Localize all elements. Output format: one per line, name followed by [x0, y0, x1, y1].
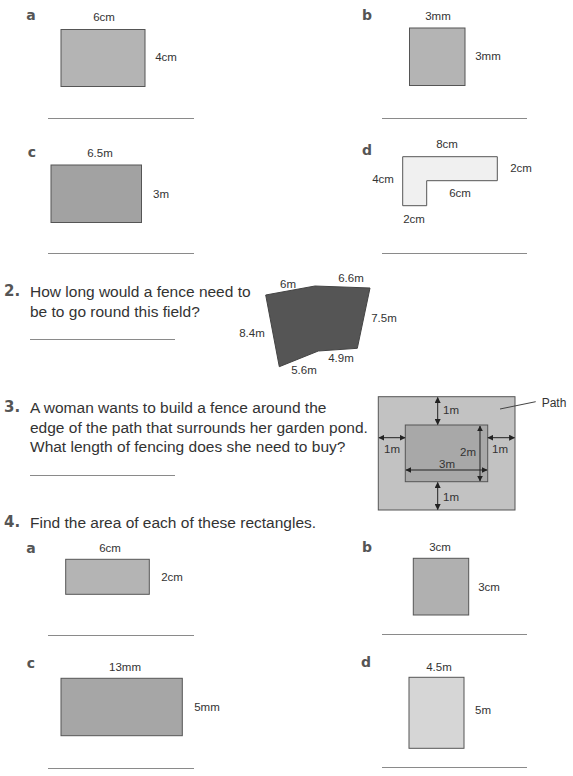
q1a-width-label: 6cm — [93, 11, 115, 23]
q1d-top-label: 8cm — [436, 138, 458, 150]
q1c-width-label: 6.5m — [87, 147, 113, 159]
q3-right-width-label: 1m — [492, 443, 508, 455]
q2-answer-line[interactable] — [30, 339, 175, 340]
q4b-height-label: 3cm — [478, 581, 500, 593]
q2-side-5-6m: 5.6m — [291, 364, 317, 376]
q4c-part-label: c — [27, 655, 35, 671]
q2-number: 2. — [4, 282, 20, 300]
q4b-width-label: 3cm — [429, 541, 451, 553]
q1d-inner-label: 6cm — [449, 187, 471, 199]
q4a-answer-line[interactable] — [48, 635, 194, 636]
q3-text-line-3: What length of fencing does she need to … — [30, 437, 345, 457]
q4a-part-label: a — [26, 540, 35, 556]
q4c-height-label: 5mm — [194, 701, 220, 713]
q4d-answer-line[interactable] — [382, 767, 527, 768]
q3-bottom-width-label: 1m — [443, 491, 459, 503]
q2-side-7-5m: 7.5m — [371, 312, 397, 324]
q1b-square — [410, 28, 466, 86]
q1c-part-label: c — [28, 144, 36, 160]
q1d-part-label: d — [362, 142, 372, 158]
q2-side-4-9m: 4.9m — [328, 352, 354, 364]
q2-text-line-1: How long would a fence need to — [30, 282, 251, 302]
q1a-rectangle — [61, 30, 145, 87]
q1d-left-label: 4cm — [372, 173, 394, 185]
q4d-rectangle — [409, 677, 464, 748]
q1b-width-label: 3mm — [425, 10, 451, 22]
q3-text-line-1: A woman wants to build a fence around th… — [30, 398, 326, 418]
q4c-rectangle — [61, 678, 182, 735]
q4b-square — [413, 558, 468, 615]
q1d-answer-line[interactable] — [382, 253, 527, 254]
q3-path-label: Path — [542, 396, 567, 410]
q4a-width-label: 6cm — [99, 542, 121, 554]
q3-pond-height-label: 2m — [460, 446, 476, 458]
q4a-rectangle — [66, 559, 150, 594]
q1b-height-label: 3mm — [475, 50, 501, 62]
q4d-height-label: 5m — [475, 704, 491, 716]
q1d-right-label: 2cm — [510, 162, 532, 174]
q4b-part-label: b — [362, 539, 372, 555]
q2-side-6m: 6m — [280, 278, 296, 290]
q1a-height-label: 4cm — [155, 51, 177, 63]
q1d-bottom-label: 2cm — [403, 213, 425, 225]
q1c-answer-line[interactable] — [48, 253, 194, 254]
q2-field-shape — [266, 286, 370, 367]
q4a-height-label: 2cm — [161, 571, 183, 583]
q4d-width-label: 4.5m — [426, 661, 452, 673]
q3-answer-line[interactable] — [30, 475, 175, 476]
q3-number: 3. — [4, 398, 20, 416]
q1c-height-label: 3m — [153, 188, 169, 200]
q3-pond-width-label: 3m — [439, 458, 455, 470]
q1b-part-label: b — [362, 7, 372, 23]
q3-top-width-label: 1m — [443, 404, 459, 416]
q2-side-8-4m: 8.4m — [239, 327, 265, 339]
q4c-width-label: 13mm — [109, 661, 141, 673]
q4-prompt: Find the area of each of these rectangle… — [30, 513, 316, 533]
q2-side-6-6m: 6.6m — [338, 272, 364, 284]
q3-left-width-label: 1m — [384, 443, 400, 455]
q1c-rectangle — [51, 165, 142, 223]
q1a-answer-line[interactable] — [48, 118, 194, 119]
q1b-answer-line[interactable] — [382, 118, 527, 119]
q1a-part-label: a — [26, 7, 35, 23]
q3-text-line-2: edge of the path that surrounds her gard… — [30, 418, 368, 438]
q4c-answer-line[interactable] — [48, 768, 194, 769]
diagrams-canvas — [0, 0, 573, 776]
q4b-answer-line[interactable] — [382, 634, 527, 635]
q4d-part-label: d — [361, 654, 371, 670]
q4-number: 4. — [4, 513, 20, 531]
q2-text-line-2: be to go round this field? — [30, 302, 200, 322]
